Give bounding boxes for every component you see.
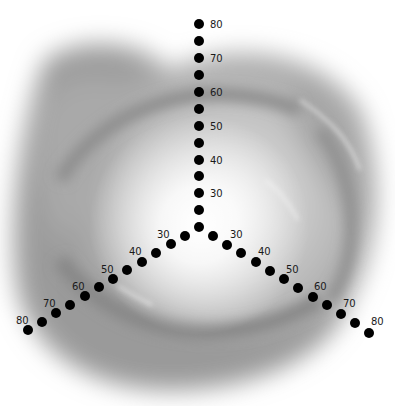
- scale-dot: [65, 300, 75, 310]
- scale-dot: [236, 248, 246, 258]
- scale-dot: [122, 265, 132, 275]
- scale-label: 50: [210, 121, 223, 132]
- axis-lower-right: 304050607080: [208, 229, 384, 338]
- axis-top: 304050607080: [194, 19, 223, 232]
- scale-dot: [279, 274, 289, 284]
- scale-label: 50: [286, 264, 299, 275]
- scale-label: 40: [210, 155, 223, 166]
- scale-label: 70: [343, 298, 356, 309]
- scale-label: 60: [210, 87, 223, 98]
- scale-dot: [194, 205, 204, 215]
- scale-dot: [108, 274, 118, 284]
- scale-dot: [265, 266, 275, 276]
- scale-dot: [194, 70, 204, 80]
- scale-dot: [23, 325, 33, 335]
- scale-label: 60: [72, 281, 85, 292]
- scale-label: 60: [314, 281, 327, 292]
- scale-label: 70: [43, 298, 56, 309]
- scale-dot: [37, 317, 47, 327]
- scale-dot: [194, 222, 204, 232]
- scale-label: 30: [230, 229, 243, 240]
- scale-label: 30: [157, 229, 170, 240]
- scale-label: 80: [371, 316, 384, 327]
- scale-dot: [350, 318, 360, 328]
- scale-dot: [194, 104, 204, 114]
- scale-dot: [364, 328, 374, 338]
- scale-dot: [194, 121, 204, 131]
- scale-label: 50: [101, 264, 114, 275]
- scale-dot: [194, 171, 204, 181]
- scale-dot: [166, 239, 176, 249]
- scale-label: 30: [210, 188, 223, 199]
- scale-label: 40: [129, 246, 142, 257]
- scale-dot: [51, 308, 61, 318]
- scale-dot: [322, 300, 332, 310]
- scale-label: 70: [210, 53, 223, 64]
- scale-dot: [94, 282, 104, 292]
- scale-dot: [308, 292, 318, 302]
- scale-dot: [194, 87, 204, 97]
- scale-dot: [222, 240, 232, 250]
- scale-dot: [80, 291, 90, 301]
- axis-lower-left: 304050607080: [16, 229, 190, 335]
- scale-dot: [180, 231, 190, 241]
- scale-label: 80: [210, 19, 223, 30]
- scale-dot: [208, 231, 218, 241]
- scale-dot: [194, 36, 204, 46]
- scale-dot: [194, 188, 204, 198]
- scale-label: 40: [258, 246, 271, 257]
- scale-dot: [293, 283, 303, 293]
- axis-overlay: 304050607080 304050607080 304050607080: [0, 0, 395, 406]
- scale-dot: [194, 155, 204, 165]
- scale-label: 80: [16, 315, 29, 326]
- scale-dot: [336, 309, 346, 319]
- diagram-stage: 304050607080 304050607080 304050607080: [0, 0, 395, 406]
- scale-dot: [251, 257, 261, 267]
- scale-dot: [194, 138, 204, 148]
- scale-dot: [151, 248, 161, 258]
- scale-dot: [194, 53, 204, 63]
- scale-dot: [194, 19, 204, 29]
- scale-dot: [137, 257, 147, 267]
